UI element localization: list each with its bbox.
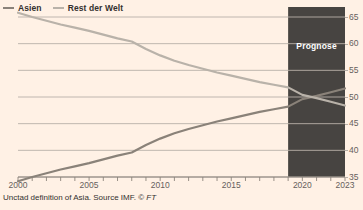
footnote-source: Unctad definition of Asia. Source IMF. xyxy=(3,193,138,202)
y-axis-tick xyxy=(345,150,348,151)
x-axis-tick-label: 2020 xyxy=(293,181,312,190)
y-axis-tick xyxy=(345,44,348,45)
x-axis-tick-label: 2010 xyxy=(151,181,170,190)
y-axis-tick xyxy=(345,70,348,71)
y-axis-tick-label: 60 xyxy=(349,39,358,47)
x-axis-tick-label: 2023 xyxy=(336,181,355,190)
x-axis-tick-label: 2005 xyxy=(80,181,99,190)
y-axis-tick-label: 50 xyxy=(349,93,358,101)
y-axis-tick xyxy=(345,17,348,18)
x-axis-tick-label: 2000 xyxy=(9,181,28,190)
y-axis-tick xyxy=(345,124,348,125)
chart-legend: Asien Rest der Welt xyxy=(3,2,123,14)
x-axis-tick-label: 2015 xyxy=(222,181,241,190)
y-axis-labels: 35404550556065 xyxy=(349,0,363,210)
forecast-band-label: Prognose xyxy=(296,41,336,51)
legend-item-asien: Asien xyxy=(3,4,42,13)
y-axis-tick xyxy=(345,177,348,178)
x-axis-labels: 200020052010201520202023 xyxy=(0,181,363,193)
footnote-ft-brand: FT xyxy=(146,193,156,202)
y-axis-tick xyxy=(345,97,348,98)
legend-item-rest-der-welt: Rest der Welt xyxy=(53,4,123,13)
y-axis-tick-label: 55 xyxy=(349,66,358,74)
legend-label-asien: Asien xyxy=(18,4,42,13)
chart-container: Asien Rest der Welt Prognose 35404550556… xyxy=(0,0,363,210)
y-axis-tick-label: 45 xyxy=(349,119,358,127)
legend-swatch-rest-der-welt xyxy=(53,7,64,10)
y-axis-tick-label: 65 xyxy=(349,13,358,21)
legend-swatch-asien xyxy=(3,7,14,10)
legend-label-rest-der-welt: Rest der Welt xyxy=(68,4,123,13)
chart-footnote: Unctad definition of Asia. Source IMF. ©… xyxy=(3,193,156,203)
y-axis-tick-label: 40 xyxy=(349,146,358,154)
